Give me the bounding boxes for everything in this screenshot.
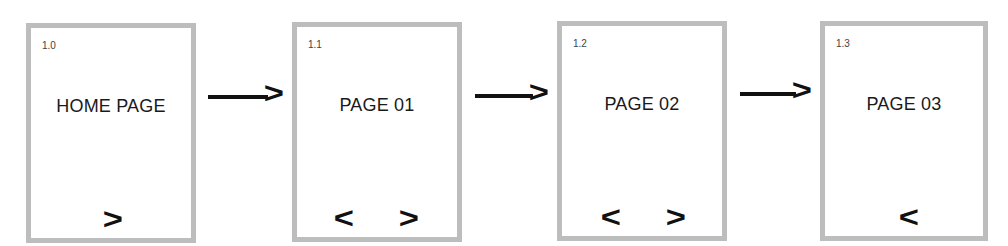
page-id: 1.3	[836, 38, 850, 49]
flow-arrow-1: >	[208, 85, 288, 109]
page-id: 1.2	[573, 38, 587, 49]
arrow-head-icon: >	[264, 78, 284, 108]
page-title: PAGE 03	[825, 94, 983, 115]
arrow-shaft	[740, 92, 796, 96]
page-id: 1.1	[308, 39, 322, 50]
flow-arrow-3: >	[740, 82, 820, 106]
prev-arrow-icon[interactable]: <	[334, 203, 354, 233]
page-box-01: 1.1 PAGE 01 < >	[292, 22, 462, 242]
page-box-03: 1.3 PAGE 03 <	[820, 21, 988, 241]
arrow-shaft	[208, 95, 268, 99]
page-title: PAGE 01	[297, 95, 457, 116]
next-arrow-icon[interactable]: >	[399, 203, 419, 233]
next-arrow-icon[interactable]: >	[103, 204, 123, 234]
arrow-head-icon: >	[792, 75, 812, 105]
next-arrow-icon[interactable]: >	[666, 202, 686, 232]
arrow-shaft	[475, 94, 533, 98]
page-box-home: 1.0 HOME PAGE >	[26, 23, 196, 243]
page-title: HOME PAGE	[31, 96, 191, 117]
page-id: 1.0	[42, 40, 56, 51]
page-title: PAGE 02	[562, 94, 722, 115]
flow-arrow-2: >	[475, 84, 555, 108]
prev-arrow-icon[interactable]: <	[899, 202, 919, 232]
prev-arrow-icon[interactable]: <	[601, 202, 621, 232]
page-box-02: 1.2 PAGE 02 < >	[557, 21, 727, 241]
arrow-head-icon: >	[529, 77, 549, 107]
